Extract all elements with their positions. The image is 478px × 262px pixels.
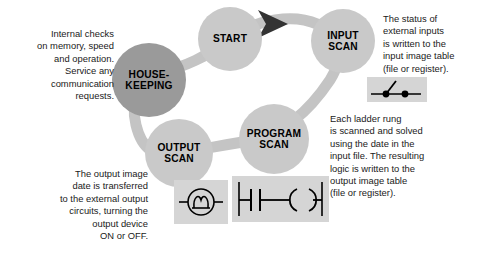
input-switch-symbol-box xyxy=(367,77,427,102)
node-input-scan-label: INPUT SCAN xyxy=(327,30,359,53)
switch-icon xyxy=(369,79,425,100)
ladder-rung-symbol-box xyxy=(232,176,329,222)
node-program-scan[interactable]: PROGRAM SCAN xyxy=(239,104,309,174)
plc-scan-cycle-diagram: START INPUT SCAN HOUSE- KEEPING PROGRAM … xyxy=(0,0,478,262)
note-program-scan: Each ladder rung is scanned and solved u… xyxy=(330,113,476,200)
note-input-scan: The status of external inputs is written… xyxy=(383,13,475,75)
node-housekeeping[interactable]: HOUSE- KEEPING xyxy=(112,43,186,117)
ladder-rung-icon xyxy=(235,179,326,219)
coil-icon xyxy=(177,184,225,220)
node-output-scan[interactable]: OUTPUT SCAN xyxy=(145,119,213,187)
node-housekeeping-label: HOUSE- KEEPING xyxy=(125,69,172,92)
note-housekeeping: Internal checks on memory, speed and ope… xyxy=(6,28,114,102)
node-start-label: START xyxy=(213,33,247,44)
node-input-scan[interactable]: INPUT SCAN xyxy=(311,9,375,73)
note-output-scan: The output image date is transferred to … xyxy=(8,168,148,242)
node-program-scan-label: PROGRAM SCAN xyxy=(247,128,302,151)
node-output-scan-label: OUTPUT SCAN xyxy=(157,142,200,165)
node-start[interactable]: START xyxy=(198,7,262,71)
output-coil-symbol-box xyxy=(174,180,228,224)
